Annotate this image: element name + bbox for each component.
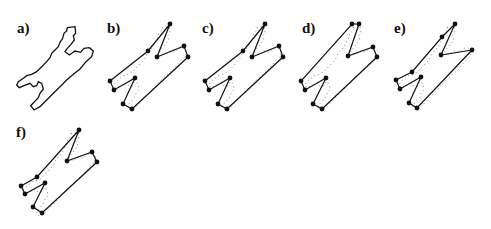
panel-c-vertex <box>216 102 221 107</box>
panel-c-vertex <box>207 88 212 93</box>
panel-f-vertex <box>77 128 82 133</box>
panel-e-vertex <box>407 101 412 106</box>
panel-e-vertex <box>439 53 444 58</box>
panel-d-vertex <box>371 45 376 50</box>
panel-c-vertex <box>263 22 268 27</box>
panel-d-vertex <box>303 88 308 93</box>
panel-d-vertex <box>324 76 329 81</box>
panel-f-label: f) <box>16 124 26 141</box>
panel-d-vertex <box>357 22 362 27</box>
panel-f-vertex <box>35 175 40 180</box>
panel-c-vertex <box>228 76 233 81</box>
panel-b-vertex <box>182 44 187 49</box>
panel-c-vertex <box>281 55 286 60</box>
panel-c-vertex <box>241 49 246 54</box>
panel-b-vertex <box>168 22 173 27</box>
panel-e-polygon <box>396 24 472 108</box>
panel-f-vertex <box>31 205 36 210</box>
panel-c-label: c) <box>202 20 214 37</box>
panel-a-label: a) <box>17 20 30 37</box>
panel-b-vertex <box>146 49 151 54</box>
panel-c-vertex <box>225 107 230 112</box>
panel-f-vertex <box>90 150 95 155</box>
panel-c-vertex <box>250 55 255 60</box>
panel-e-vertex <box>470 48 475 53</box>
panel-b-vertex <box>108 79 113 84</box>
panel-e-vertex <box>415 106 420 111</box>
panel-b-vertex <box>130 107 135 112</box>
panel-e-vertex <box>410 70 415 75</box>
panel-a-contour <box>17 27 94 110</box>
panel-f-vertex <box>23 192 28 197</box>
panel-b-vertex <box>133 76 138 81</box>
panel-d-vertex <box>320 107 325 112</box>
panel-f-vertex <box>40 211 45 216</box>
panel-d-vertex <box>346 54 351 59</box>
panel-f-vertex <box>43 181 48 186</box>
panel-f-vertex <box>95 160 100 165</box>
panel-c-vertex <box>277 44 282 49</box>
panel-b-vertex <box>112 88 117 93</box>
figure: a) b) c) d) e) f) <box>0 0 491 229</box>
panel-d-vertex <box>375 55 380 60</box>
panel-d-vertex <box>311 102 316 107</box>
panel-f-vertex <box>19 184 24 189</box>
panel-e-vertex <box>419 75 424 80</box>
panel-d-vertex <box>350 22 355 27</box>
panel-f-polygon <box>21 130 97 213</box>
panel-d-polygon <box>301 24 377 109</box>
panel-e-vertex <box>398 87 403 92</box>
panel-b-vertex <box>155 55 160 60</box>
panel-c-vertex <box>203 79 208 84</box>
panel-e-vertex <box>453 22 458 27</box>
panel-e-vertex <box>440 35 445 40</box>
panel-d-label: d) <box>302 20 315 37</box>
panel-e-label: e) <box>394 20 406 37</box>
panel-b-vertex <box>186 55 191 60</box>
panel-e-original-contour <box>399 27 472 110</box>
panel-b-vertex <box>121 102 126 107</box>
panel-b-label: b) <box>107 20 120 37</box>
panel-f-vertex <box>65 159 70 164</box>
panel-f-original-contour <box>23 133 96 216</box>
panel-d-vertex <box>299 79 304 84</box>
panel-e-vertex <box>394 78 399 83</box>
